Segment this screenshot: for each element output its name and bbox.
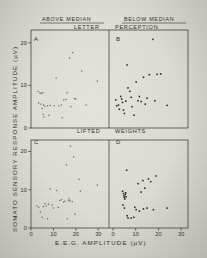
panel-title-weights: WEIGHTS: [115, 129, 146, 135]
data-point: [70, 146, 71, 147]
data-point: [144, 187, 146, 189]
data-point: [166, 105, 168, 107]
data-point: [116, 105, 118, 107]
x-tick-label: 0: [111, 231, 114, 237]
data-point: [146, 207, 148, 209]
panel-title-letter: LETTER: [74, 25, 100, 31]
x-tick-label: 20: [155, 231, 161, 237]
data-point: [61, 199, 62, 200]
data-point: [137, 100, 139, 102]
data-point: [97, 81, 98, 82]
data-point: [115, 99, 117, 101]
data-point: [64, 201, 65, 202]
data-point: [125, 196, 127, 198]
plot-canvas: 010200102001020300102030: [0, 0, 207, 258]
panel-title-perception: PERCEPTION: [115, 25, 158, 31]
data-point: [156, 74, 158, 76]
data-point: [135, 209, 137, 211]
data-point: [140, 191, 142, 193]
data-point: [125, 100, 127, 102]
data-point: [55, 78, 56, 79]
data-point: [72, 52, 73, 53]
data-point: [154, 100, 156, 102]
x-tick-label: 10: [133, 231, 139, 237]
data-point: [86, 104, 87, 105]
data-point: [122, 102, 124, 104]
data-point: [149, 74, 151, 76]
data-point: [67, 218, 68, 219]
data-point: [42, 114, 43, 115]
scatter-series-a: [38, 52, 98, 118]
data-point: [97, 185, 98, 186]
data-point: [123, 109, 125, 111]
data-point: [118, 104, 120, 106]
data-point: [47, 218, 48, 219]
data-point: [47, 105, 48, 106]
y-tick-label: 10: [21, 187, 27, 193]
data-point: [63, 99, 64, 100]
data-point: [58, 105, 59, 106]
panel-letter-d: D: [116, 139, 121, 145]
data-point: [62, 117, 63, 118]
data-point: [155, 175, 157, 177]
data-point: [53, 207, 54, 208]
scatter-series-c: [36, 146, 98, 220]
data-point: [134, 207, 136, 209]
data-point: [42, 92, 43, 93]
data-point: [123, 193, 125, 195]
data-point: [127, 87, 129, 89]
data-point: [44, 106, 45, 107]
data-point: [72, 201, 73, 202]
data-point: [70, 106, 71, 107]
panel-letter-a: A: [34, 36, 38, 42]
x-axis-title: E.E.G. AMPLITUDE (µV): [55, 240, 147, 246]
data-point: [126, 169, 128, 171]
data-point: [133, 114, 135, 116]
data-point: [153, 209, 155, 211]
data-point: [54, 105, 55, 106]
data-point: [74, 214, 75, 215]
data-point: [131, 106, 133, 108]
data-point: [145, 103, 147, 105]
panel-title-lifted: LIFTED: [77, 129, 100, 135]
x-tick-label: 20: [73, 231, 79, 237]
data-point: [125, 194, 127, 196]
data-point: [40, 211, 41, 212]
data-point: [48, 115, 49, 116]
data-point: [43, 206, 44, 207]
data-point: [68, 200, 69, 201]
data-point: [66, 92, 67, 93]
data-point: [40, 104, 41, 105]
data-point: [124, 207, 126, 209]
column-header-below-median: BELOW MEDIAN: [124, 17, 174, 22]
data-point: [137, 183, 139, 185]
data-point: [130, 97, 132, 99]
data-point: [48, 204, 49, 205]
data-point: [44, 203, 45, 204]
data-point: [129, 91, 131, 93]
data-point: [124, 197, 126, 199]
data-point: [66, 164, 67, 165]
data-point: [56, 190, 57, 191]
x-tick-label: 10: [50, 231, 56, 237]
y-tick-label: 20: [21, 40, 27, 46]
data-point: [81, 70, 82, 71]
data-point: [140, 101, 142, 103]
data-point: [78, 179, 79, 180]
data-point: [122, 190, 124, 192]
figure-container: 010200102001020300102030 ABOVE MEDIAN BE…: [0, 0, 207, 258]
data-point: [69, 198, 70, 199]
data-point: [124, 198, 126, 200]
data-point: [126, 64, 128, 66]
y-tick-label: 0: [24, 125, 27, 131]
data-point: [58, 207, 59, 208]
data-point: [59, 200, 60, 201]
data-point: [166, 207, 168, 209]
data-point: [50, 188, 51, 189]
data-point: [133, 217, 135, 219]
data-point: [50, 105, 51, 106]
data-point: [119, 108, 121, 110]
y-axis-title: SOMATO SENSORY RESPONSE AMPLITUDE (µV): [11, 46, 18, 232]
x-tick-label: 30: [95, 231, 101, 237]
data-point: [38, 91, 39, 92]
